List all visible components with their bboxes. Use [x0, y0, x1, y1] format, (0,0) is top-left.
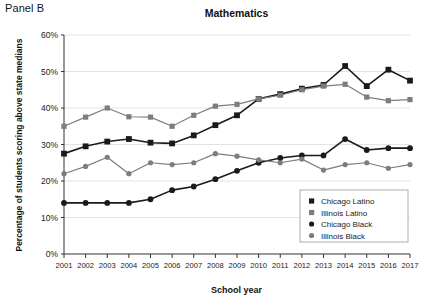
data-point-marker: [386, 166, 391, 171]
data-point-marker: [343, 162, 348, 167]
y-tick-label: 40%: [41, 103, 58, 113]
data-point-marker: [191, 160, 196, 165]
data-series: [61, 63, 413, 156]
y-axis-ticks: 0%10%20%30%40%50%60%: [41, 30, 64, 259]
data-point-marker: [407, 162, 412, 167]
data-point-marker: [83, 143, 89, 149]
data-point-marker: [278, 93, 283, 98]
legend-label: Illinois Latino: [321, 209, 368, 218]
legend-marker: [309, 221, 314, 226]
data-point-marker: [104, 139, 110, 145]
data-point-marker: [105, 105, 110, 110]
x-tick-label: 2012: [293, 261, 310, 270]
data-point-marker: [213, 151, 218, 156]
data-point-marker: [83, 200, 89, 206]
y-tick-label: 60%: [41, 30, 58, 40]
data-point-marker: [148, 160, 153, 165]
legend-marker: [309, 198, 314, 203]
data-point-marker: [170, 162, 175, 167]
legend-label: Chicago Black: [321, 220, 373, 229]
legend-label: Chicago Latino: [321, 197, 375, 206]
x-tick-label: 2003: [99, 261, 116, 270]
data-point-marker: [256, 157, 261, 162]
data-point-marker: [61, 200, 67, 206]
data-point-marker: [234, 112, 240, 118]
data-point-marker: [321, 84, 326, 89]
data-point-marker: [213, 104, 218, 109]
legend-marker: [309, 210, 314, 215]
x-tick-label: 2013: [315, 261, 332, 270]
data-point-marker: [148, 115, 153, 120]
data-point-marker: [212, 122, 218, 128]
x-tick-label: 2009: [229, 261, 246, 270]
data-series-layer: [61, 63, 413, 206]
x-tick-label: 2005: [142, 261, 159, 270]
data-point-marker: [83, 164, 88, 169]
x-tick-label: 2011: [272, 261, 288, 270]
line-chart-plot: 0%10%20%30%40%50%60% 2001200220032004200…: [0, 0, 428, 305]
x-tick-label: 2010: [250, 261, 267, 270]
data-series: [61, 82, 412, 129]
legend-label: Illinois Black: [321, 232, 366, 241]
x-tick-label: 2002: [77, 261, 94, 270]
figure-panel-b: Panel B Mathematics Percentage of studen…: [0, 0, 428, 305]
data-point-marker: [407, 78, 413, 84]
data-point-marker: [126, 136, 132, 142]
data-point-marker: [364, 160, 369, 165]
data-point-marker: [343, 82, 348, 87]
data-point-marker: [385, 145, 391, 151]
data-point-marker: [234, 154, 239, 159]
data-point-marker: [385, 67, 391, 73]
x-tick-label: 2017: [402, 261, 419, 270]
data-point-marker: [83, 115, 88, 120]
data-point-marker: [61, 124, 66, 129]
data-point-marker: [278, 160, 283, 165]
data-point-marker: [299, 157, 304, 162]
data-point-marker: [61, 151, 67, 157]
data-point-marker: [191, 184, 197, 190]
data-point-marker: [386, 98, 391, 103]
data-point-marker: [61, 171, 66, 176]
y-tick-label: 0%: [46, 249, 59, 259]
y-tick-label: 30%: [41, 140, 58, 150]
data-point-marker: [126, 114, 131, 119]
x-tick-label: 2014: [337, 261, 354, 270]
chart-legend: Chicago LatinoIllinois LatinoChicago Bla…: [300, 190, 408, 242]
data-point-marker: [148, 140, 154, 146]
data-point-marker: [105, 155, 110, 160]
data-point-marker: [126, 171, 131, 176]
data-point-marker: [191, 113, 196, 118]
x-tick-label: 2006: [164, 261, 181, 270]
x-tick-label: 2001: [56, 261, 73, 270]
x-tick-label: 2016: [380, 261, 397, 270]
x-tick-label: 2015: [358, 261, 375, 270]
data-point-marker: [256, 96, 261, 101]
data-point-marker: [364, 94, 369, 99]
data-point-marker: [191, 132, 197, 138]
data-point-marker: [169, 187, 175, 193]
x-tick-label: 2007: [185, 261, 202, 270]
data-point-marker: [126, 200, 132, 206]
x-axis-ticks: 2001200220032004200520062007200820092010…: [56, 254, 419, 270]
data-point-marker: [299, 87, 304, 92]
data-point-marker: [364, 83, 370, 89]
data-point-marker: [169, 141, 175, 147]
data-point-marker: [170, 124, 175, 129]
data-point-marker: [234, 168, 240, 174]
data-point-marker: [277, 155, 283, 161]
data-point-marker: [234, 102, 239, 107]
y-tick-label: 20%: [41, 176, 58, 186]
data-point-marker: [321, 167, 326, 172]
data-point-marker: [342, 136, 348, 142]
data-point-marker: [212, 176, 218, 182]
data-point-marker: [407, 145, 413, 151]
y-tick-label: 10%: [41, 213, 58, 223]
data-point-marker: [364, 147, 370, 153]
data-point-marker: [148, 196, 154, 202]
data-point-marker: [104, 200, 110, 206]
data-point-marker: [407, 97, 412, 102]
x-tick-label: 2008: [207, 261, 224, 270]
data-point-marker: [342, 63, 348, 69]
y-tick-label: 50%: [41, 67, 58, 77]
data-point-marker: [321, 153, 327, 159]
